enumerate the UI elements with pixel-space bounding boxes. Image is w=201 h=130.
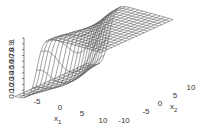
mesh-line-x2 <box>88 16 160 49</box>
x1-tick-label: -5 <box>33 97 41 106</box>
x1-axis-label: x1 <box>54 114 62 125</box>
x1-tick-label: 5 <box>80 109 85 118</box>
surface-plot: 0.10.20.30.40.50.60.70.80.91 -50510 -10-… <box>0 0 201 130</box>
mesh-line-x2 <box>101 20 173 53</box>
axes <box>22 38 24 96</box>
x2-tick-label: -10 <box>118 116 130 125</box>
mesh-line-x2 <box>54 7 126 40</box>
mesh-line-x2 <box>80 14 152 47</box>
z-tick-label: 1 <box>7 38 16 43</box>
mesh-line-x2 <box>84 15 156 48</box>
x1-axis-ticks: -50510 <box>33 97 108 125</box>
x2-tick-label: 10 <box>187 83 196 92</box>
surface-mesh <box>15 7 173 98</box>
x2-axis-ticks: -10-50510 <box>118 83 196 125</box>
x2-tick-label: 5 <box>173 91 178 100</box>
x1-tick-label: 10 <box>99 116 108 125</box>
x2-axis-label: x2 <box>170 102 178 113</box>
mesh-line-x2 <box>19 64 91 97</box>
x2-tick-label: 0 <box>158 99 163 108</box>
z-axis-ticks: 0.10.20.30.40.50.60.70.80.91 <box>7 38 16 99</box>
mesh-line-x1 <box>51 25 137 83</box>
x1-tick-label: 0 <box>58 103 63 112</box>
x2-tick-label: -5 <box>142 107 150 116</box>
mesh-line-x2 <box>15 63 87 96</box>
